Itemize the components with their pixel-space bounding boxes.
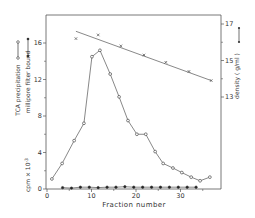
left-y-tick-label: 12 [34, 76, 42, 84]
left-y-tick-label: 4 [38, 149, 42, 157]
data-point-open-circle [154, 150, 157, 153]
x-tick-label: 20 [132, 192, 140, 200]
data-point-open-circle [50, 178, 53, 181]
left-axis-label-millipore: millipore filter bound [24, 50, 32, 113]
left-axis-label-group: TCA precipitation millipore filter bound… [14, 38, 32, 192]
plot-frame [46, 15, 221, 189]
series-cross [75, 31, 213, 82]
data-point-open-circle [180, 171, 183, 174]
cross-legend-icon [238, 27, 240, 43]
data-point-open-circle [118, 95, 121, 98]
data-point-filled-circle [195, 186, 197, 188]
x-tick-label: 10 [87, 192, 95, 200]
right-axis-label-density: density ( g/ml ) [233, 53, 241, 99]
data-point-open-circle [83, 122, 86, 125]
left-y-tick-label: 16 [34, 39, 42, 47]
axes-box [46, 15, 221, 189]
data-point-open-circle [208, 176, 211, 179]
data-point-filled-circle [106, 186, 108, 188]
data-point-filled-circle [177, 186, 179, 188]
data-point-filled-circle [159, 186, 161, 188]
data-point-filled-circle [124, 186, 126, 188]
right-y-tick-label: 17 [225, 20, 233, 28]
left-y-tick-label: 8 [38, 112, 42, 120]
x-axis-label: Fraction number [102, 201, 166, 209]
data-point-open-circle [162, 162, 165, 165]
data-point-cross [97, 34, 100, 37]
open-circle-legend-icon [17, 41, 20, 60]
data-point-filled-circle [186, 186, 188, 188]
data-point-open-circle [172, 167, 175, 170]
data-point-open-circle [135, 133, 138, 136]
data-point-open-circle [144, 133, 147, 136]
data-point-filled-circle [79, 186, 81, 188]
data-point-open-circle [109, 73, 112, 76]
data-point-open-circle [61, 162, 64, 165]
data-point-cross [120, 45, 123, 48]
chart: 0102030 0481216 131517 Fraction number T… [0, 0, 255, 218]
right-y-axis-ticks: 131517 [221, 20, 233, 101]
right-axis-label-group: density ( g/ml ) [233, 27, 241, 99]
left-y-tick-label: 0 [38, 185, 42, 193]
x-tick-label: 30 [176, 192, 184, 200]
data-point-open-circle [91, 55, 94, 58]
data-point-open-circle [190, 176, 193, 179]
data-point-open-circle [73, 139, 76, 142]
data-point-filled-circle [70, 187, 72, 189]
x-tick-label: 0 [45, 192, 49, 200]
data-point-open-circle [99, 49, 102, 52]
x-axis-ticks: 0102030 [45, 189, 203, 200]
data-point-filled-circle [168, 186, 170, 188]
data-point-filled-circle [133, 186, 135, 188]
left-y-axis-ticks: 0481216 [34, 39, 46, 193]
data-point-filled-circle [115, 186, 117, 188]
data-point-filled-circle [97, 186, 99, 188]
data-point-filled-circle [150, 186, 152, 188]
data-point-cross [75, 37, 78, 40]
data-point-open-circle [199, 179, 202, 182]
data-point-open-circle [127, 119, 130, 122]
left-axis-label-tca: TCA precipitation [14, 64, 22, 117]
series-open-circle [50, 49, 211, 182]
left-axis-label-units: cpm × 10-3 [24, 158, 32, 192]
series-layer [50, 31, 212, 189]
data-point-filled-circle [88, 186, 90, 188]
data-point-filled-circle [61, 186, 63, 188]
data-point-filled-circle [141, 186, 143, 188]
data-point-cross [165, 61, 168, 64]
